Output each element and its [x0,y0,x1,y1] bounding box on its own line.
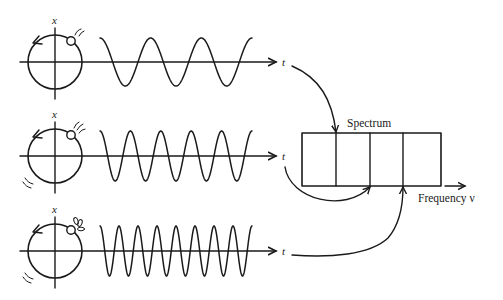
oscillating-particle [67,37,75,45]
arrow-low-to-bin [292,66,336,132]
arrow-high-to-bin [292,187,403,256]
motion-marks-icon [75,29,84,36]
time-axis-label: t [282,56,286,68]
oscillator-spectrum-diagram: xt xt xt Spectrum Frequency ν [0,0,503,300]
time-axis-label: t [282,150,286,162]
frequency-axis-label: Frequency ν [418,192,475,205]
x-axis-label: x [51,203,57,215]
oscillator-row-high: xt [20,203,286,288]
oscillating-particle [67,131,75,139]
x-axis-label: x [51,108,57,120]
time-axis-label: t [282,245,286,257]
spectrum-label: Spectrum [347,117,391,130]
arrow-mid-to-bin [285,167,370,201]
motion-marks-icon [23,217,85,283]
x-axis-label: x [51,14,57,26]
oscillating-particle [67,226,75,234]
spectrum-frame [302,133,441,186]
frequency-axis: Frequency ν [418,186,475,205]
oscillator-row-low: xt [20,14,286,99]
motion-marks-icon [23,122,85,188]
spectrum-box: Spectrum [302,117,441,186]
oscillator-row-mid: xt [20,108,286,193]
